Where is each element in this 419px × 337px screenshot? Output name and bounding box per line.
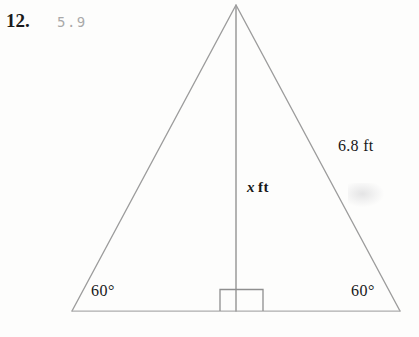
right-angle-marker [220,290,263,312]
angle-label-right: 60° [351,283,375,299]
side-length-label: 6.8 ft [338,138,374,154]
angle-label-left: 60° [91,283,115,299]
altitude-variable: x [247,179,255,195]
altitude-label: xft [247,180,269,195]
worksheet-problem: 12. 5.9 60° 60° 6.8 ft xft [0,0,419,337]
altitude-unit: ft [258,179,269,195]
triangle-right-leg [236,5,400,311]
triangle-left-leg [72,5,236,311]
